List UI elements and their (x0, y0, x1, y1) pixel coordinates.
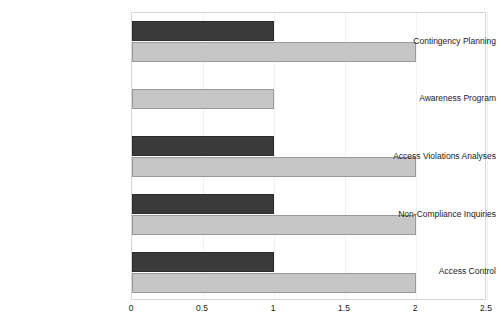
x-axis-tick-labels: 00.511.522.5 (131, 303, 486, 319)
bar-series-light (132, 42, 416, 62)
bar-series-dark (132, 194, 274, 214)
x-tick-label: 0 (129, 303, 134, 313)
x-tick-label: 0.5 (196, 303, 208, 313)
category-label: Access Control (375, 266, 501, 276)
category-label: Access Violations Analyses (375, 151, 501, 161)
x-tick-label: 2.5 (480, 303, 492, 313)
bar-series-light (132, 273, 416, 293)
x-tick-label: 2 (413, 303, 418, 313)
bar-series-light (132, 157, 416, 177)
bar-series-dark (132, 21, 274, 41)
bar-series-light (132, 89, 274, 109)
x-tick-label: 1.5 (338, 303, 350, 313)
category-label: Non-Compliance Inquiries (375, 209, 501, 219)
bar-chart: Contingency PlanningAwareness ProgramAcc… (0, 0, 501, 332)
bar-series-dark (132, 136, 274, 156)
bar-series-light (132, 215, 416, 235)
bar-series-dark (132, 252, 274, 272)
category-label: Awareness Program (375, 93, 501, 103)
x-tick-label: 1 (271, 303, 276, 313)
category-label: Contingency Planning (375, 36, 501, 46)
